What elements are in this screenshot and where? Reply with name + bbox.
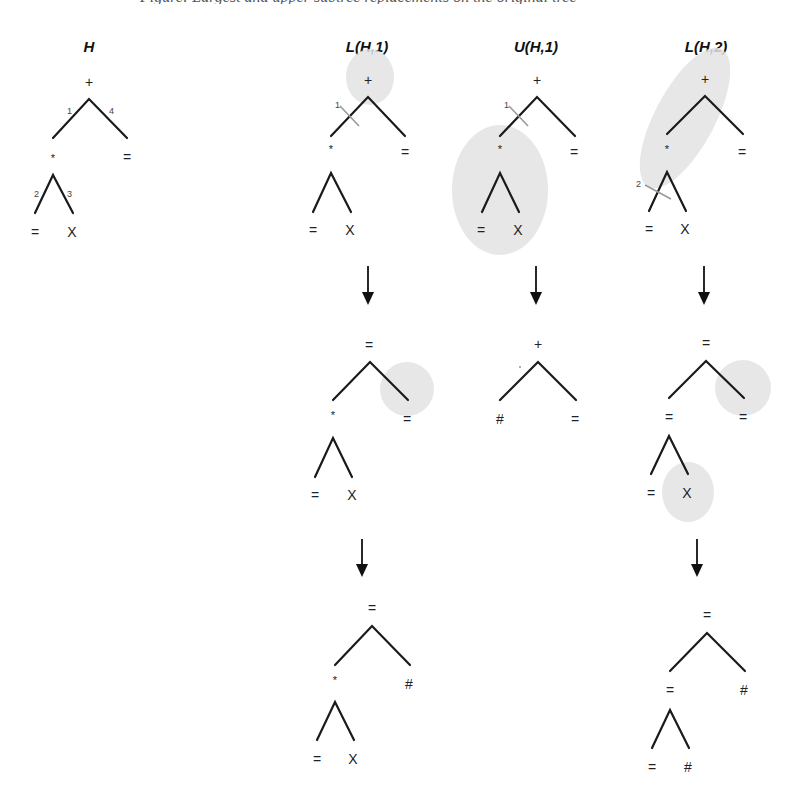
highlight-region bbox=[380, 362, 434, 416]
edge-left bbox=[317, 702, 354, 740]
highlight-region bbox=[622, 35, 748, 201]
cut-label: 1 bbox=[335, 100, 340, 110]
edge-root bbox=[53, 99, 127, 138]
tree-u-h-1-step-0: + 1 * = = X bbox=[452, 72, 578, 255]
node-left-left: = bbox=[647, 485, 655, 501]
node-right: = bbox=[403, 411, 411, 427]
node-left: * bbox=[665, 143, 670, 155]
node-root: = bbox=[368, 600, 376, 616]
cut-label: 2 bbox=[636, 179, 641, 189]
tree-l-h-2-step-2: = = # = # bbox=[648, 607, 748, 775]
highlight-region-right bbox=[715, 360, 771, 416]
node-left-left: = bbox=[477, 222, 485, 238]
node-left: * bbox=[333, 674, 338, 686]
edge-left bbox=[313, 173, 351, 212]
node-left-right: # bbox=[684, 759, 692, 775]
node-root: + bbox=[534, 336, 542, 352]
edge-label-3: 3 bbox=[67, 189, 72, 199]
column-title-u-h-1: U(H,1) bbox=[514, 38, 558, 55]
edge-root bbox=[500, 362, 576, 400]
edge-label-1: 1 bbox=[67, 106, 72, 116]
tree-h: + 1 4 * = 2 3 = X bbox=[31, 74, 131, 240]
tree-l-h-1-step-0: + 1 * = = X bbox=[309, 49, 409, 238]
node-left-left: = bbox=[311, 487, 319, 503]
edge-label-4: 4 bbox=[109, 106, 114, 116]
node-left-left: = bbox=[31, 224, 39, 240]
edge-label-2: 2 bbox=[34, 189, 39, 199]
node-left-left: = bbox=[645, 221, 653, 237]
node-left-right: X bbox=[513, 222, 523, 238]
node-left: * bbox=[331, 409, 336, 421]
arrow-l-h-2-1 bbox=[698, 266, 710, 305]
node-left-right: X bbox=[347, 487, 357, 503]
edge-root bbox=[670, 633, 745, 671]
node-right: = bbox=[738, 144, 746, 160]
node-left-left: = bbox=[313, 751, 321, 767]
edge-left bbox=[652, 710, 689, 748]
node-root: + bbox=[701, 71, 709, 87]
node-left-right: X bbox=[67, 224, 77, 240]
tree-l-h-1-step-2: = * # = X bbox=[313, 600, 413, 767]
arrow-l-h-1-1 bbox=[362, 266, 374, 305]
stray-dot bbox=[519, 366, 521, 368]
node-left: * bbox=[51, 152, 56, 164]
tree-l-h-2-step-0: + * = 2 = X bbox=[622, 35, 748, 237]
node-root: = bbox=[365, 337, 373, 353]
node-right: # bbox=[740, 682, 748, 698]
arrow-l-h-2-2 bbox=[691, 539, 703, 577]
node-root: + bbox=[85, 74, 93, 90]
tree-diagram: H L(H,1) U(H,1) L(H,2) + 1 4 * = 2 3 = X… bbox=[0, 0, 800, 805]
node-left-left: = bbox=[648, 759, 656, 775]
node-root: = bbox=[703, 607, 711, 623]
node-right: # bbox=[405, 676, 413, 692]
arrow-u-h-1-1 bbox=[530, 266, 542, 305]
node-left: # bbox=[496, 411, 504, 427]
node-right: = bbox=[123, 149, 131, 165]
node-left: * bbox=[329, 143, 334, 155]
node-root: + bbox=[533, 72, 541, 88]
node-right: = bbox=[739, 409, 747, 425]
node-right: = bbox=[571, 411, 579, 427]
tree-l-h-2-step-1: = = = = X bbox=[647, 335, 771, 522]
arrow-l-h-1-2 bbox=[356, 539, 368, 577]
node-right: = bbox=[570, 144, 578, 160]
node-left-right: X bbox=[682, 485, 692, 501]
node-left-right: X bbox=[345, 222, 355, 238]
edge-root bbox=[335, 626, 410, 665]
column-title-h: H bbox=[84, 38, 96, 55]
node-root: + bbox=[364, 72, 372, 88]
cut-label: 1 bbox=[504, 100, 509, 110]
edge-left bbox=[315, 438, 352, 477]
node-left-right: X bbox=[348, 751, 358, 767]
node-right: = bbox=[401, 144, 409, 160]
node-left: * bbox=[498, 143, 503, 155]
node-left: = bbox=[665, 409, 673, 425]
tree-u-h-1-step-1: + # = bbox=[496, 336, 579, 427]
node-left-left: = bbox=[309, 222, 317, 238]
tree-l-h-1-step-1: = * = = X bbox=[311, 337, 434, 503]
node-left-right: X bbox=[680, 221, 690, 237]
node-root: = bbox=[702, 335, 710, 351]
node-left: = bbox=[666, 682, 674, 698]
